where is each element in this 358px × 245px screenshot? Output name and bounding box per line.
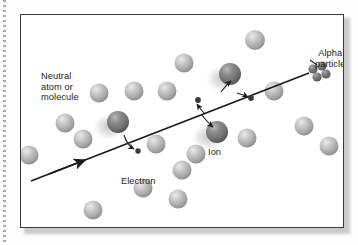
neutral-atom-sphere: [125, 82, 144, 101]
neutral-atom-sphere: [238, 129, 257, 148]
neutral-atom-sphere: [158, 82, 177, 101]
figure-frame: Neutral atom or molecule Alpha particle …: [20, 14, 344, 228]
page-top-text-fragment: [22, 0, 142, 11]
neutral-atom-sphere: [74, 130, 93, 149]
ion-group: [107, 63, 241, 143]
ion-sphere: [107, 111, 129, 133]
label-neutral-atom: Neutral atom or molecule: [41, 71, 79, 103]
trajectory-direction-arrow: [49, 160, 85, 174]
neutral-atom-group: [21, 30, 339, 220]
neutral-atom-sphere: [21, 146, 39, 165]
neutral-atom-sphere: [320, 137, 339, 156]
neutral-atom-sphere: [175, 54, 194, 73]
label-electron: Electron: [121, 176, 156, 187]
neutral-atom-sphere: [84, 201, 103, 220]
neutral-atom-sphere: [245, 30, 265, 50]
neutral-atom-sphere: [295, 117, 314, 136]
page-root: Neutral atom or molecule Alpha particle …: [0, 0, 358, 245]
electron-dot: [248, 95, 254, 101]
label-alpha-particle: Alpha particle: [315, 48, 344, 69]
neutral-atom-sphere: [90, 84, 109, 103]
electron-ejection-arrow: [197, 104, 204, 113]
neutral-atom-sphere: [187, 145, 206, 164]
electron-ejection-arrow: [237, 93, 248, 97]
page-perforation-edge: [3, 0, 6, 245]
label-ion: Ion: [208, 147, 221, 158]
figure-canvas: Neutral atom or molecule Alpha particle …: [21, 15, 343, 227]
neutral-atom-sphere: [56, 114, 75, 133]
neutral-atom-sphere: [173, 161, 192, 180]
neutral-atom-sphere: [169, 190, 188, 209]
diagram-svg: [21, 15, 342, 226]
electron-dot: [135, 148, 140, 153]
neutral-atom-sphere: [147, 135, 166, 154]
electron-dot: [195, 97, 201, 103]
